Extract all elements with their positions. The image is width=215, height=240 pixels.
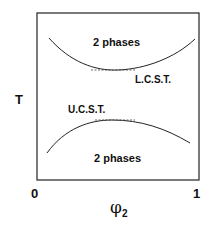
x-tick-1: 1	[193, 187, 200, 200]
phi-symbol: φ	[110, 197, 122, 217]
lcst-label: L.C.S.T.	[135, 75, 171, 85]
ucst-label: U.C.S.T.	[68, 105, 105, 115]
upper-region-label: 2 phases	[93, 37, 140, 48]
ucst-curve	[47, 120, 190, 153]
y-axis-label: T	[15, 93, 23, 106]
x-axis-label: φ2	[110, 199, 127, 219]
phi-subscript: 2	[122, 208, 128, 219]
lower-region-label: 2 phases	[94, 153, 141, 164]
x-tick-0: 0	[31, 187, 38, 200]
